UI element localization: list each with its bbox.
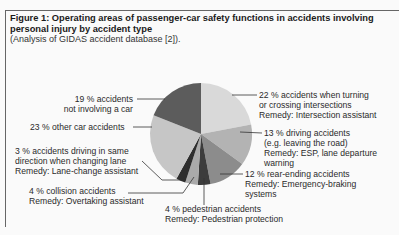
label-collision: 4 % collision accidents Remedy: Overtaki… — [29, 186, 144, 206]
label-rear: 12 % rear-ending accidents Remedy: Emerg… — [245, 169, 356, 199]
label-lane: 3 % accidents driving in same direction … — [15, 146, 138, 176]
label-notcar: 19 % accidents not involving a car — [60, 94, 133, 114]
label-pedestrian: 4 % pedestrian accidents Remedy: Pedestr… — [165, 204, 283, 224]
label-driving: 13 % driving accidents (e.g. leaving the… — [264, 128, 377, 168]
label-intersection: 22 % accidents when turning or crossing … — [259, 90, 377, 120]
label-other: 23 % other car accidents — [30, 122, 125, 132]
pie-slices — [150, 83, 252, 185]
